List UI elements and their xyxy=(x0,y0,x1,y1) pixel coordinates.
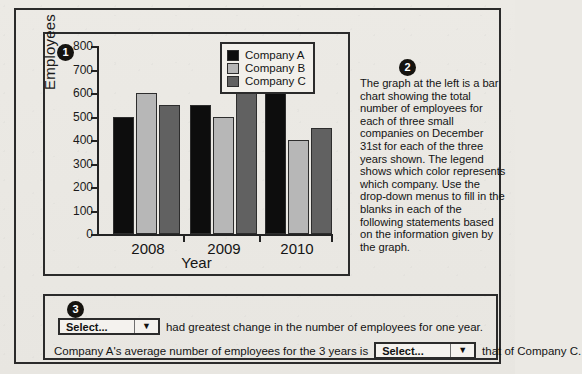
legend-item-company-a: Company A xyxy=(227,49,306,61)
bar-2008-company-b xyxy=(136,93,157,234)
bar-2009-company-c xyxy=(236,81,257,234)
legend-swatch-company-b xyxy=(227,63,239,74)
bar-2008-company-c xyxy=(159,105,180,234)
y-tick-label-300: 300 xyxy=(73,157,93,171)
instructions-text: The graph at the left is a bar chart sho… xyxy=(360,77,506,253)
question-frame: 1 Employees 0 100 200 300 xyxy=(14,8,501,364)
statement-row-2: Company A's average number of employees … xyxy=(53,342,582,359)
y-tick-label-200: 200 xyxy=(73,180,93,194)
legend-swatch-company-c xyxy=(227,76,239,87)
legend-label-company-c: Company C xyxy=(245,75,306,87)
y-tick-label-500: 500 xyxy=(73,110,93,124)
y-tick-label-0: 0 xyxy=(86,227,93,241)
legend-label-company-a: Company A xyxy=(245,49,304,61)
y-tick-label-700: 700 xyxy=(73,63,93,77)
statement-1-text-after: had greatest change in the number of emp… xyxy=(165,321,484,333)
bar-2010-company-b xyxy=(288,140,309,234)
step-badge-1: 1 xyxy=(57,44,74,61)
x-axis-line xyxy=(97,234,333,236)
y-tick-label-100: 100 xyxy=(73,204,93,218)
statement-2-text-after: that of Company C. xyxy=(481,345,582,357)
statement-1-dropdown[interactable]: Select... ▼ xyxy=(58,318,160,335)
legend-item-company-b: Company B xyxy=(227,62,306,74)
chart-x-axis-title: Year xyxy=(45,254,348,271)
x-tick-1 xyxy=(183,236,185,242)
chart-legend: Company A Company B Company C xyxy=(220,42,315,94)
statement-1-dropdown-value: Select... xyxy=(60,321,134,333)
bar-2010-company-a xyxy=(265,93,286,234)
statement-2-dropdown[interactable]: Select... ▼ xyxy=(374,342,476,359)
bar-2008-company-a xyxy=(113,117,134,235)
step-badge-2: 2 xyxy=(399,59,416,76)
legend-item-company-c: Company C xyxy=(227,75,306,87)
statement-2-text-before: Company A's average number of employees … xyxy=(53,345,369,357)
bar-2009-company-a xyxy=(190,105,211,234)
x-tick-3 xyxy=(331,236,333,242)
bar-group-2008 xyxy=(113,46,183,234)
chart-y-axis-title: Employees xyxy=(41,14,58,90)
step-badge-3: 3 xyxy=(67,301,84,318)
bar-2010-company-c xyxy=(311,128,332,234)
statements-panel: 3 Select... ▼ had greatest change in the… xyxy=(43,294,498,360)
x-tick-2 xyxy=(259,236,261,242)
legend-swatch-company-a xyxy=(227,50,239,61)
y-tick-label-800: 800 xyxy=(73,39,93,53)
legend-label-company-b: Company B xyxy=(245,62,305,74)
chart-panel: 1 Employees 0 100 200 300 xyxy=(43,32,350,276)
statement-row-1: Select... ▼ had greatest change in the n… xyxy=(53,318,484,335)
bar-2009-company-b xyxy=(213,117,234,235)
y-tick-label-600: 600 xyxy=(73,86,93,100)
chevron-down-icon: ▼ xyxy=(451,346,474,355)
chevron-down-icon: ▼ xyxy=(135,322,158,331)
y-tick-label-400: 400 xyxy=(73,133,93,147)
statement-2-dropdown-value: Select... xyxy=(376,345,450,357)
